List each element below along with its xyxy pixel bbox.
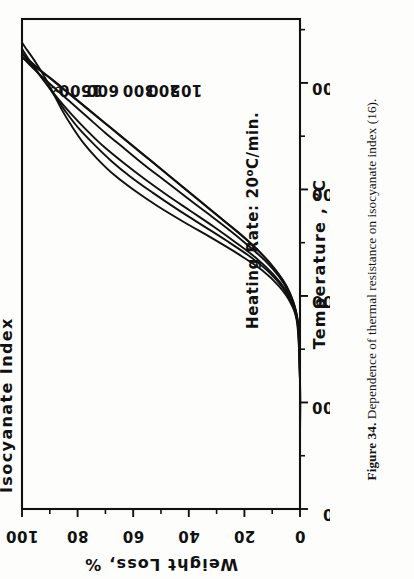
y-tick-label: 0 <box>295 527 306 545</box>
y-tick-label: 40 <box>178 527 200 545</box>
series-label-105: 105 <box>170 81 203 99</box>
figure-number: Figure 34. <box>364 423 379 481</box>
y-axis-ticks <box>22 509 300 517</box>
y-tick-label: 20 <box>233 527 255 545</box>
y-tick-label: 100 <box>6 527 39 545</box>
figure-page: 0100200300400 020406080100 ∞150060030020… <box>0 0 414 579</box>
y-axis-title: Weight Loss, % <box>84 555 238 574</box>
y-axis-tick-labels: 020406080100 <box>6 527 306 545</box>
series-labels: ∞1500600300200105 <box>49 81 202 99</box>
x-tick-label: 0 <box>323 505 330 523</box>
figure-caption-block: Figure 34. Dependence of thermal resista… <box>330 0 414 579</box>
series-label-600: 600 <box>86 81 119 99</box>
y-tick-label: 80 <box>67 527 89 545</box>
heating-rate-note: Heating Rate: 20oC/min. <box>244 112 262 329</box>
figure-caption: Figure 34. Dependence of thermal resista… <box>364 99 380 481</box>
x-tick-label: 400 <box>312 79 330 97</box>
chart-title: Isocyanate Index <box>0 317 16 493</box>
figure-caption-text: Dependence of thermal resistance on isoc… <box>364 99 379 420</box>
chart-svg: 0100200300400 020406080100 ∞150060030020… <box>0 0 330 579</box>
chart-figure: 0100200300400 020406080100 ∞150060030020… <box>0 0 330 579</box>
x-tick-label: 100 <box>312 398 330 416</box>
y-tick-label: 60 <box>122 527 144 545</box>
x-axis-ticks <box>300 30 308 509</box>
